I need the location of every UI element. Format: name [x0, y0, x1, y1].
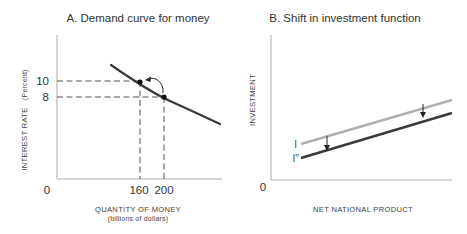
- investment-line-i-double-prime: [301, 113, 452, 158]
- panel-b: B. Shift in investment function I I'' 0 …: [248, 12, 452, 214]
- x-tick-200: 200: [154, 184, 173, 196]
- money-demand-curve: [111, 65, 220, 124]
- panel-b-y-label: INVESTMENT: [248, 74, 257, 126]
- panel-a-x-label: QUANTITY OF MONEY: [95, 205, 181, 214]
- y-tick-10: 10: [36, 75, 49, 87]
- panel-a-y-label-group: INTEREST RATE (Percent): [13, 69, 30, 170]
- label-i: I: [294, 139, 297, 150]
- label-i-double-prime: I'': [292, 153, 299, 164]
- point-160-10: [137, 79, 142, 84]
- down-arrow-icon: [420, 112, 426, 118]
- x-tick-160: 160: [129, 184, 148, 196]
- investment-line-i: [301, 100, 452, 144]
- origin-b: 0: [260, 181, 266, 193]
- panel-a-y-label: INTEREST RATE: [20, 107, 29, 170]
- panel-a-x-label-unit: (billions of dollars): [108, 215, 169, 223]
- panel-a-title: A. Demand curve for money: [66, 12, 209, 24]
- origin-a: 0: [44, 184, 50, 196]
- y-tick-8: 8: [43, 91, 49, 103]
- panel-a-y-label-unit: (Percent): [21, 69, 29, 100]
- point-200-8: [161, 94, 166, 99]
- panel-b-x-label: NET NATIONAL PRODUCT: [313, 205, 413, 214]
- arrowhead-icon: [145, 77, 151, 83]
- diagram-canvas: A. Demand curve for money 10 8 0 160 200…: [0, 0, 467, 234]
- panel-a: A. Demand curve for money 10 8 0 160 200…: [13, 12, 222, 223]
- panel-b-title: B. Shift in investment function: [269, 12, 421, 24]
- svg-text:INTEREST RATE (Percent: INTEREST RATE (Percent): [13, 69, 30, 170]
